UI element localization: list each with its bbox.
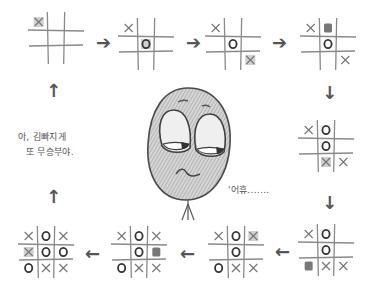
cell-mark [59,264,67,272]
arrow-up-icon: ↑ [46,188,61,206]
arrow-down-icon: ↓ [322,194,337,212]
cell-mark [215,264,222,272]
cell-mark [135,264,143,272]
arrow-down-icon: ↓ [322,84,337,102]
arrow-right-icon: ➔ [272,34,287,52]
cell-mark [152,264,160,272]
caption-left: 아, 김빠지게 또 무승부야. [18,130,74,160]
cell-mark [229,40,236,48]
cell-mark [59,232,67,240]
board-2 [120,20,175,70]
arrow-right-icon: ➔ [96,34,111,52]
cell-mark [245,55,255,65]
cell-mark [25,232,33,240]
cell-mark [322,246,329,254]
cell-mark [25,264,32,272]
arrow-left-icon: ← [85,245,100,263]
board-4 [302,20,357,70]
cell-mark [42,264,50,272]
cell-mark [322,126,329,134]
cell-mark [232,248,239,256]
cell-mark [339,262,347,270]
cell-mark [232,264,240,272]
cell-mark [42,248,49,256]
cell-mark [339,158,347,166]
cell-mark [307,24,315,32]
cell-mark [118,264,125,272]
cell-mark [321,157,331,167]
cell-mark [305,126,313,134]
cell-mark [118,232,126,240]
arrow-right-icon: ➔ [186,34,201,52]
cell-mark [322,142,329,150]
board-3 [207,20,262,70]
cell-mark [212,24,220,32]
cell-mark [141,39,151,49]
cell-mark [152,232,160,240]
cell-mark [322,230,329,238]
cell-mark [305,230,313,238]
cell-mark [215,232,223,240]
cell-mark [125,24,133,32]
cell-mark [249,264,257,272]
egg-head-character [138,82,238,226]
cell-mark [324,40,331,48]
cell-mark [152,248,160,257]
cell-mark [34,17,44,27]
arrow-up-icon: ↑ [46,82,61,100]
board-6 [300,226,355,276]
cell-mark [248,231,258,241]
arrow-left-icon: ← [180,245,195,263]
cell-mark [324,24,332,33]
cell-mark [232,232,239,240]
caption-line-2: 또 무승부야. [18,145,74,160]
cell-mark [42,232,49,240]
arrow-left-icon: ← [275,243,290,261]
cell-mark [341,56,349,64]
cell-mark [135,232,142,240]
caption-line-1: 아, 김빠지게 [18,130,74,145]
board-5 [300,122,355,172]
board-7 [210,228,265,278]
board-9 [20,228,75,278]
cell-mark [305,262,313,271]
cell-mark [24,247,34,257]
cell-mark [322,262,330,270]
board-8 [113,228,168,278]
cell-mark [60,248,67,256]
board-1 [30,14,85,64]
cell-mark [135,248,142,256]
